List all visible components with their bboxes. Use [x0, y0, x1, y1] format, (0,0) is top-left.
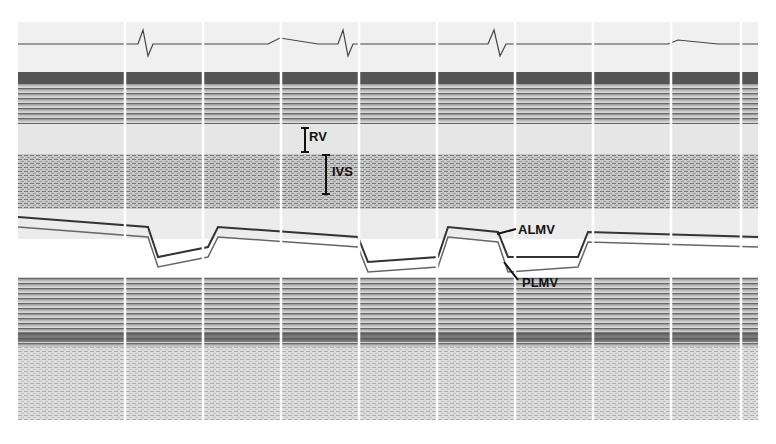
label-rv: RV	[309, 129, 327, 144]
label-almv: ALMV	[518, 222, 555, 237]
echocardiogram-figure: RV IVS ALMV PLMV	[0, 0, 776, 444]
label-plmv: PLMV	[522, 275, 558, 290]
label-ivs: IVS	[332, 164, 353, 179]
m-mode-trace	[18, 22, 758, 420]
